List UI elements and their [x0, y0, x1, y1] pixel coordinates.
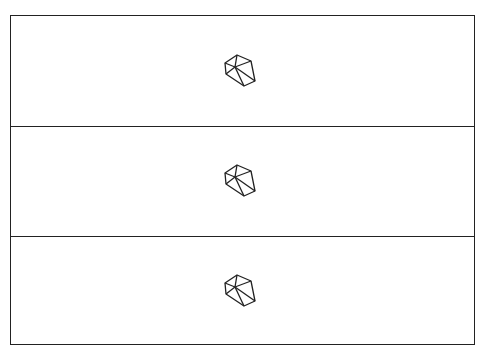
polyhedron-wireframe-icon [223, 163, 257, 199]
polyhedron-wireframe-icon [223, 53, 257, 89]
diagram-frame [10, 15, 475, 345]
panel-3 [11, 236, 474, 345]
polyhedron-wireframe-icon [223, 273, 257, 309]
panel-1 [11, 16, 474, 126]
panel-2 [11, 126, 474, 236]
